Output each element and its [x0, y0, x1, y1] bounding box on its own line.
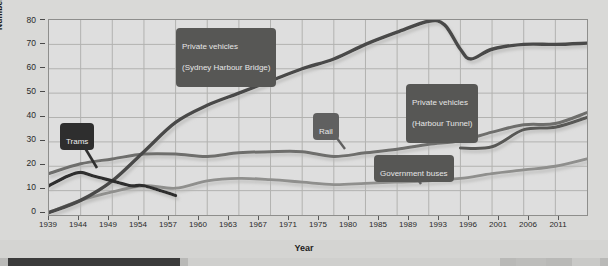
- y-tick-mark: [40, 19, 45, 20]
- callout-private-vehicles-bridge: Private vehicles (Sydney Harbour Bridge): [176, 28, 276, 87]
- callout-private-vehicles-tunnel: Private vehicles (Harbour Tunnel): [406, 84, 478, 143]
- callout-tunnel-line1: Private vehicles: [412, 98, 472, 109]
- callout-rail-label: Rail: [319, 127, 333, 136]
- y-tick-label-50: 50: [10, 86, 36, 96]
- callout-bridge-line1: Private vehicles: [182, 42, 270, 53]
- y-tick-mark: [40, 116, 45, 117]
- y-tick-mark: [40, 43, 45, 44]
- y-tick-label-0: 0: [10, 206, 36, 216]
- y-tick-label-60: 60: [10, 62, 36, 72]
- y-tick-mark: [40, 188, 45, 189]
- footer-block-left: [8, 258, 180, 266]
- x-axis-title: Year: [0, 243, 608, 253]
- callout-rail: Rail: [313, 113, 339, 140]
- footer-chip-b: [572, 258, 600, 266]
- callout-bridge-line2: (Sydney Harbour Bridge): [182, 63, 270, 74]
- y-tick-mark: [40, 67, 45, 68]
- y-tick-label-80: 80: [10, 15, 36, 25]
- chart-figure: Number of passengers and drivers (millio…: [0, 0, 608, 266]
- callout-government-buses: Government buses: [374, 155, 454, 182]
- y-tick-label-30: 30: [10, 134, 36, 144]
- y-axis-title: Number of passengers and drivers (millio…: [0, 0, 4, 30]
- y-tick-label-70: 70: [10, 38, 36, 48]
- x-tick-label-2011: 2011: [538, 220, 578, 229]
- y-tick-mark: [40, 212, 45, 213]
- footer-chip-a: [516, 258, 546, 266]
- callout-trams: Trams: [60, 123, 94, 150]
- y-tick-label-40: 40: [10, 110, 36, 120]
- callout-buses-label: Government buses: [380, 169, 448, 178]
- y-tick-label-20: 20: [10, 158, 36, 168]
- callout-tunnel-line2: (Harbour Tunnel): [412, 119, 472, 130]
- footer-block-mid: [188, 258, 500, 266]
- y-tick-mark: [40, 164, 45, 165]
- y-tick-mark: [40, 91, 45, 92]
- callout-trams-label: Trams: [66, 137, 88, 146]
- y-tick-label-10: 10: [10, 182, 36, 192]
- y-tick-mark: [40, 140, 45, 141]
